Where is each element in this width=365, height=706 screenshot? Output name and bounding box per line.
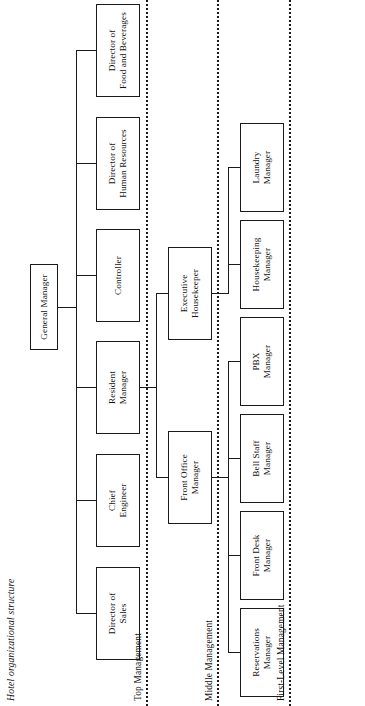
node-label-line2: Human Resources bbox=[118, 129, 129, 198]
tier-label-top-management: Top Management bbox=[133, 633, 143, 701]
node-label-line2: Manager bbox=[262, 534, 273, 576]
edge-gm-to-chief-engineer bbox=[76, 500, 96, 501]
node-label-line1: Housekeeping bbox=[251, 238, 262, 292]
node-label-line1: Laundry bbox=[251, 151, 262, 184]
node-housekeeping-manager[interactable]: Housekeeping Manager bbox=[240, 220, 284, 309]
node-label-line1: Director of bbox=[107, 593, 118, 635]
node-label-line2: Manager bbox=[262, 238, 273, 292]
node-label-line1: Front Office bbox=[179, 454, 190, 501]
edge-resident-to-exec-housekeeper bbox=[156, 293, 168, 294]
node-laundry-manager[interactable]: Laundry Manager bbox=[240, 123, 284, 212]
edge-resident-to-front-office bbox=[156, 477, 168, 478]
node-label-line2: Manager bbox=[118, 371, 129, 404]
edge-eh-to-housekeeping bbox=[228, 264, 240, 265]
edge-gm-to-director-sales bbox=[76, 613, 96, 614]
node-label-line1: Resident bbox=[107, 371, 118, 404]
node-executive-housekeeper[interactable]: Executive Housekeeper bbox=[168, 247, 212, 340]
node-front-office-manager[interactable]: Front Office Manager bbox=[168, 431, 212, 524]
tier-separator-middle bbox=[217, 0, 219, 706]
edge-fo-to-bell-staff bbox=[228, 458, 240, 459]
node-label-line2: Engineer bbox=[118, 484, 129, 518]
node-label-line1: Director of bbox=[107, 12, 118, 89]
tier-label-middle-management: Middle Management bbox=[204, 620, 214, 701]
node-label-line1: Controller bbox=[113, 256, 124, 295]
edge-gm-to-director-hr bbox=[76, 163, 96, 164]
edge-gm-to-director-fb bbox=[76, 50, 96, 51]
edge-front-office-stem bbox=[212, 477, 228, 478]
node-front-desk-manager[interactable]: Front Desk Manager bbox=[240, 511, 284, 600]
figure-caption: Hotel organizational structure bbox=[5, 578, 16, 701]
edge-resident-bus bbox=[156, 293, 157, 478]
node-label-line1: Front Desk bbox=[251, 534, 262, 576]
node-label-line2: Housekeeper bbox=[190, 269, 201, 318]
node-label-line2: Manager bbox=[262, 628, 273, 677]
edge-gm-to-resident-manager bbox=[76, 387, 96, 388]
node-label-line2: Food and Beverages bbox=[118, 12, 129, 89]
node-label-line2: Manager bbox=[262, 440, 273, 476]
node-general-manager[interactable]: General Manager bbox=[30, 264, 58, 350]
node-label-line2: Sales bbox=[118, 593, 129, 635]
edge-fo-to-pbx bbox=[228, 361, 240, 362]
edge-fo-to-front-desk bbox=[228, 555, 240, 556]
edge-exec-housekeeper-bus-left bbox=[228, 264, 229, 294]
node-director-of-human-resources[interactable]: Director of Human Resources bbox=[96, 117, 140, 210]
edge-gm-stem bbox=[58, 307, 76, 308]
org-chart-canvas: Top Management Middle Management First-L… bbox=[0, 0, 365, 706]
edge-exec-housekeeper-stem bbox=[212, 293, 228, 294]
node-controller[interactable]: Controller bbox=[96, 229, 140, 322]
node-label-line1: Chief bbox=[107, 484, 118, 518]
node-label-line2: Manager bbox=[262, 151, 273, 184]
edge-gm-bus bbox=[76, 51, 77, 614]
tier-separator-first-level bbox=[289, 0, 291, 706]
tier-label-first-level-management: First-Level Management bbox=[276, 604, 286, 701]
node-resident-manager[interactable]: Resident Manager bbox=[96, 341, 140, 434]
edge-exec-housekeeper-bus bbox=[228, 168, 229, 265]
node-bell-staff-manager[interactable]: Bell Staff Manager bbox=[240, 414, 284, 503]
tier-separator-top bbox=[146, 0, 148, 706]
node-label-line1: Reservations bbox=[251, 628, 262, 677]
edge-gm-to-controller bbox=[76, 275, 96, 276]
node-label-line1: PBX bbox=[251, 345, 262, 378]
edge-resident-stem bbox=[140, 387, 156, 388]
node-label-line1: Bell Staff bbox=[251, 440, 262, 476]
node-label-line1: Director of bbox=[107, 129, 118, 198]
node-director-of-food-and-beverages[interactable]: Director of Food and Beverages bbox=[96, 4, 140, 97]
edge-fo-to-reservations bbox=[228, 652, 240, 653]
node-label: General Manager bbox=[39, 274, 50, 340]
edge-eh-to-laundry bbox=[228, 167, 240, 168]
node-pbx-manager[interactable]: PBX Manager bbox=[240, 317, 284, 406]
node-label-line2: Manager bbox=[262, 345, 273, 378]
node-chief-engineer[interactable]: Chief Engineer bbox=[96, 454, 140, 547]
node-label-line2: Manager bbox=[190, 454, 201, 501]
node-label-line1: Executive bbox=[179, 269, 190, 318]
edge-front-office-bus bbox=[228, 361, 229, 653]
